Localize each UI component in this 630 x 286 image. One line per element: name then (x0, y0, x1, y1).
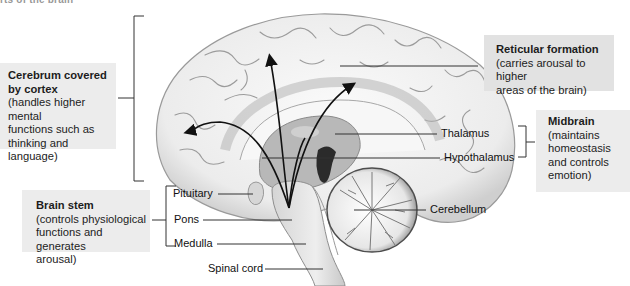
brain-stem-desc-1: (controls physiological (36, 213, 150, 227)
reticular-title: Reticular formation (496, 43, 614, 57)
reticular-formation-label-box: Reticular formation (carries arousal to … (484, 35, 614, 91)
cerebellum-label: Cerebellum (430, 203, 486, 215)
cerebrum-title-1: Cerebrum covered (8, 69, 116, 83)
pituitary-label: Pituitary (173, 187, 213, 199)
cerebrum-desc-2: functions such as (8, 123, 116, 137)
medulla-label: Medulla (174, 237, 213, 249)
brain-stem-label-box: Brain stem (controls physiological funct… (22, 190, 150, 252)
pons-label: Pons (174, 213, 199, 225)
cerebrum-title-2: by cortex (8, 83, 116, 97)
brain-stem-desc-2: functions and generates (36, 226, 150, 253)
cerebrum-desc-1: (handles higher mental (8, 96, 116, 123)
midbrain-desc-4: emotion) (548, 169, 630, 183)
midbrain-label-box: Midbrain (maintains homeostasis and cont… (536, 110, 630, 192)
brain-stem-desc-3: arousal) (36, 253, 150, 267)
cerebrum-label-box: Cerebrum covered by cortex (handles high… (0, 63, 116, 149)
spinal-cord-label: Spinal cord (208, 262, 263, 274)
midbrain-desc-3: and controls (548, 156, 630, 170)
pituitary-shape (248, 182, 264, 205)
midbrain-desc-1: (maintains (548, 129, 630, 143)
thalamus-label: Thalamus (441, 127, 489, 139)
hypothalamus-label: Hypothalamus (444, 151, 514, 163)
reticular-desc-2: areas of the brain) (496, 84, 614, 98)
brain-diagram: rts of the brain (0, 0, 630, 286)
cerebrum-desc-3: thinking and language) (8, 137, 116, 164)
midbrain-desc-2: homeostasis (548, 142, 630, 156)
brain-stem-title: Brain stem (36, 199, 150, 213)
reticular-desc-1: (carries arousal to higher (496, 57, 614, 84)
midbrain-title: Midbrain (548, 115, 630, 129)
